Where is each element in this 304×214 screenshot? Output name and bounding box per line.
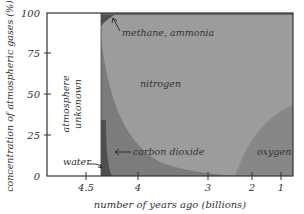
unknown-label-line2: unkonown	[72, 79, 83, 129]
y-tick-0: 0	[34, 171, 41, 182]
unknown-label-line1: atmosphere	[60, 75, 71, 132]
y-tick-75: 75	[27, 48, 40, 59]
x-tick-1: 1	[278, 182, 284, 193]
carbon-dioxide-label: carbon dioxide	[133, 146, 205, 157]
methane-ammonia-label: methane, ammonia	[122, 27, 215, 38]
nitrogen-label: nitrogen	[140, 78, 181, 89]
x-axis-label: number of years ago (billions)	[94, 199, 246, 210]
oxygen-label: oxygen	[257, 146, 291, 157]
x-tick-2: 2	[248, 182, 255, 193]
y-tick-25: 25	[26, 130, 40, 141]
y-tick-50: 50	[27, 89, 40, 100]
water-label: water	[63, 156, 92, 167]
y-axis-label: concentration of atmospheric gases (%)	[4, 0, 15, 192]
y-tick-100: 100	[21, 8, 41, 19]
x-tick-4: 4	[134, 182, 141, 193]
x-tick-4.5: 4.5	[77, 182, 94, 193]
x-tick-3: 3	[205, 182, 211, 193]
atmosphere-composition-chart: 100 75 50 25 0 4.5 4 3 2 1 number of yea…	[0, 0, 304, 214]
